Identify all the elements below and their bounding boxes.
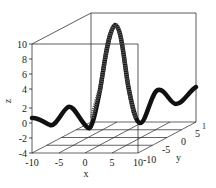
z-tick-label: 4 (22, 84, 27, 95)
z-tick-label: 2 (22, 103, 27, 114)
y-tick-label: 5 (195, 128, 200, 139)
plot-box-frame (32, 13, 196, 153)
x-tick-label: 10 (133, 157, 143, 168)
z-axis-label: z (2, 98, 13, 103)
y-axis-label: y (176, 152, 181, 163)
x-tick-label: 5 (110, 157, 115, 168)
z-tick-label: -2 (19, 133, 27, 144)
z-tick-label: 8 (22, 54, 27, 65)
floor-grid (32, 122, 196, 153)
y-tick-label: -5 (162, 144, 170, 155)
z-axis: 10 8 6 4 2 0 -2 -4 z (2, 39, 32, 159)
y-tick-label: 1 (202, 122, 206, 131)
x-axis-label: x (84, 168, 89, 179)
y-axis: -10 -5 0 5 1 y (143, 122, 206, 165)
3d-line-plot: 10 8 6 4 2 0 -2 -4 z -10 -5 0 5 10 x -10… (0, 0, 216, 188)
z-tick-label: 0 (22, 118, 27, 129)
z-tick-label: 6 (22, 69, 27, 80)
x-tick-label: -5 (55, 157, 63, 168)
x-tick-label: -10 (25, 157, 38, 168)
z-tick-label: 10 (17, 39, 27, 50)
x-axis: -10 -5 0 5 10 x (25, 157, 143, 179)
y-tick-label: 0 (181, 136, 186, 147)
y-tick-label: -10 (143, 154, 156, 165)
data-curve (32, 25, 196, 128)
x-tick-label: 0 (83, 157, 88, 168)
